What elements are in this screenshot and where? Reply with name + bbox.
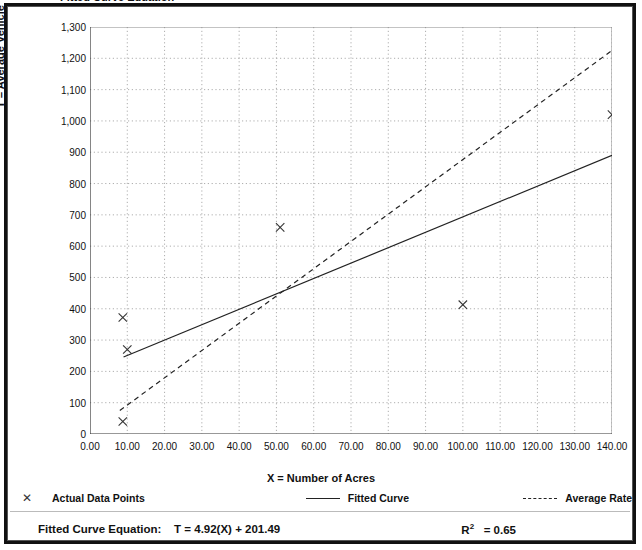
figure-root: Fitted Curve Equation T = Average Vehicl… (0, 0, 642, 550)
y-tick-label: 500 (42, 272, 86, 283)
x-axis-title: X = Number of Acres (0, 472, 642, 484)
y-tick-label: 800 (42, 178, 86, 189)
chart-area: T = Average Vehicle Trip Ends 0100200300… (0, 0, 642, 470)
dashed-line-icon (523, 498, 557, 499)
legend-label-actual-data-points: Actual Data Points (52, 492, 145, 504)
r-squared-number: = 0.65 (484, 524, 516, 536)
y-tick-label: 200 (42, 366, 86, 377)
legend-item-fitted-curve: Fitted Curve (306, 487, 409, 509)
y-axis-title: T = Average Vehicle Trip Ends (0, 0, 6, 160)
r-squared-prefix: R (461, 524, 469, 536)
y-tick-label: 400 (42, 303, 86, 314)
fitted-curve-equation: Fitted Curve Equation: T = 4.92(X) + 201… (38, 523, 280, 535)
plot-area (90, 27, 612, 434)
equation-formula: T = 4.92(X) + 201.49 (174, 523, 280, 535)
y-tick-label: 1,200 (42, 53, 86, 64)
y-tick-label: 600 (42, 241, 86, 252)
legend: ✕ Actual Data Points Fitted Curve Averag… (10, 487, 632, 509)
y-axis-tick-labels: 01002003004005006007008009001,0001,1001,… (38, 27, 86, 434)
legend-item-average-rate: Average Rate (523, 487, 632, 509)
y-tick-label: 300 (42, 335, 86, 346)
x-tick-label: 140.00 (582, 441, 642, 452)
y-tick-label: 1,100 (42, 84, 86, 95)
y-tick-label: 1,300 (42, 22, 86, 33)
y-tick-label: 0 (42, 429, 86, 440)
plot-svg (90, 27, 612, 434)
r-squared-value: R2 = 0.65 (461, 522, 516, 536)
y-tick-label: 1,000 (42, 115, 86, 126)
r-squared-exponent: 2 (470, 522, 474, 531)
y-tick-label: 100 (42, 397, 86, 408)
y-tick-label: 700 (42, 209, 86, 220)
solid-line-icon (306, 498, 340, 499)
equation-separator (10, 511, 630, 512)
equation-row: Fitted Curve Equation: T = 4.92(X) + 201… (10, 517, 632, 541)
legend-item-actual-data-points: ✕ Actual Data Points (10, 487, 145, 509)
x-axis-tick-labels: 0.0010.0020.0030.0040.0050.0060.0070.008… (90, 441, 612, 457)
legend-label-average-rate: Average Rate (565, 492, 632, 504)
equation-label: Fitted Curve Equation: (38, 523, 161, 535)
x-marker-icon: ✕ (10, 492, 44, 504)
legend-label-fitted-curve: Fitted Curve (348, 492, 409, 504)
y-tick-label: 900 (42, 147, 86, 158)
